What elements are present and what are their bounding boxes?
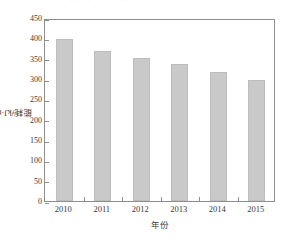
y-axis-tick-labels: 050100150200250300350400450	[20, 7, 42, 248]
y-axis-tick	[45, 142, 49, 143]
bar-chart: 能耗/kJ·t-1 050100150200250300350400450 20…	[0, 7, 290, 248]
figure-caption-clipped: 图 2 某企业吨产品能耗年际变化。	[0, 0, 290, 7]
x-axis-tick	[238, 197, 239, 201]
y-axis-tick-label: 350	[30, 56, 42, 64]
y-axis-tick	[45, 101, 49, 102]
plot-inner	[45, 20, 274, 201]
bar	[171, 64, 188, 201]
y-axis-tick-label: 400	[30, 35, 42, 43]
x-axis-tick	[84, 197, 85, 201]
x-axis-tick-label: 2010	[55, 204, 72, 215]
y-axis-tick-label: 150	[30, 137, 42, 145]
figure-caption-text: 图 2 某企业吨产品能耗年际变化。	[4, 0, 142, 2]
bar	[56, 39, 73, 201]
y-axis-tick	[45, 81, 49, 82]
y-axis-tick	[45, 60, 49, 61]
y-axis-tick-label: 0	[38, 198, 42, 206]
bar	[94, 51, 111, 201]
y-axis-tick	[45, 20, 49, 21]
y-axis-tick-label: 50	[34, 178, 42, 186]
x-axis-tick-label: 2011	[93, 204, 110, 215]
bar-series	[45, 20, 274, 201]
bar	[133, 58, 150, 201]
x-axis-tick	[199, 197, 200, 201]
x-axis-tick-label: 2013	[170, 204, 187, 215]
x-axis-tick-labels: 201020112012201320142015	[44, 204, 275, 218]
y-axis-tick	[45, 162, 49, 163]
x-axis-tick	[161, 197, 162, 201]
x-axis-title: 年份	[44, 218, 275, 230]
figure-canvas: 图 2 某企业吨产品能耗年际变化。 能耗/kJ·t-1 050100150200…	[0, 0, 290, 248]
x-axis-tick	[122, 197, 123, 201]
y-axis-tick-label: 300	[30, 76, 42, 84]
y-axis-tick	[45, 40, 49, 41]
y-axis-tick-label: 250	[30, 96, 42, 104]
y-axis-tick	[45, 182, 49, 183]
x-axis-tick-label: 2014	[209, 204, 226, 215]
plot-area	[44, 19, 275, 202]
y-axis-tick-label: 200	[30, 117, 42, 125]
x-axis-tick-label: 2015	[247, 204, 264, 215]
bar	[248, 80, 265, 201]
y-axis-tick-label: 450	[30, 15, 42, 23]
x-axis-tick-label: 2012	[132, 204, 149, 215]
y-axis-tick	[45, 121, 49, 122]
bar	[210, 72, 227, 201]
y-axis-tick-label: 100	[30, 157, 42, 165]
